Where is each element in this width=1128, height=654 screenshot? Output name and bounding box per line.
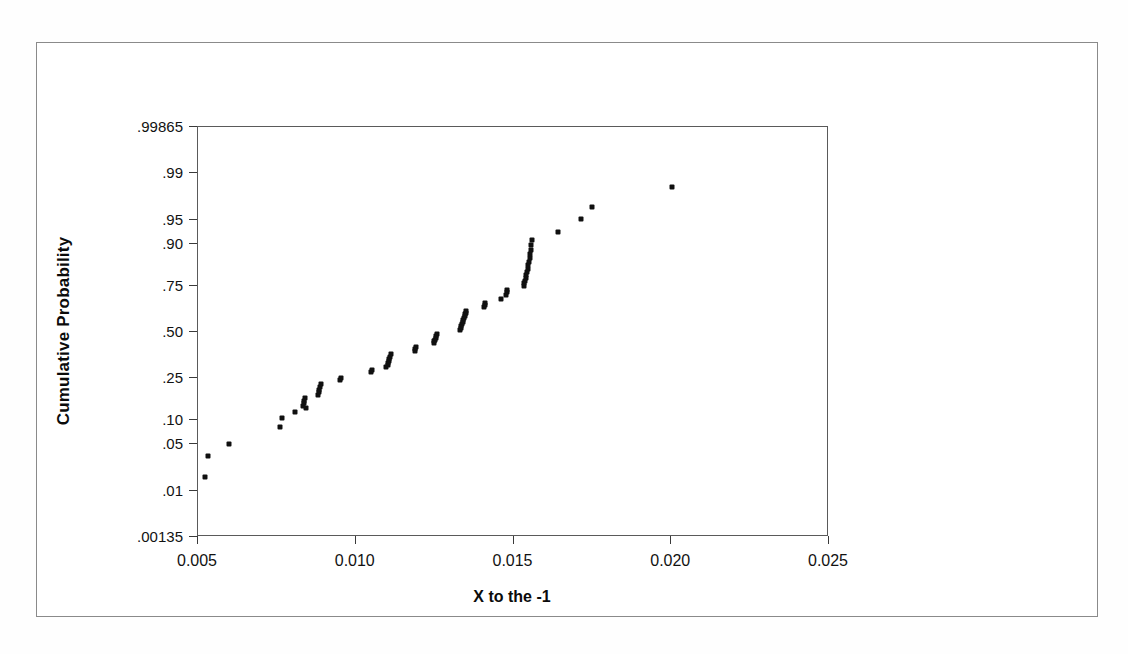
y-tick-mark: [189, 285, 197, 286]
y-tick-mark: [189, 419, 197, 420]
y-tick-label: .90: [162, 235, 183, 252]
y-tick-mark: [189, 443, 197, 444]
x-tick-label: 0.020: [650, 552, 690, 570]
x-tick-mark: [513, 536, 514, 544]
y-tick-mark: [189, 331, 197, 332]
probability-plot: .99865.99.95.90.75.50.25.10.05.01.00135 …: [0, 0, 1128, 654]
y-tick-mark: [189, 536, 197, 537]
x-tick-mark: [197, 536, 198, 544]
x-tick-mark: [670, 536, 671, 544]
x-tick-mark: [828, 536, 829, 544]
y-tick-label: .50: [162, 323, 183, 340]
plot-frame: [197, 126, 828, 536]
x-tick-label: 0.025: [808, 552, 848, 570]
y-tick-label: .05: [162, 435, 183, 452]
x-tick-label: 0.005: [177, 552, 217, 570]
y-tick-mark: [189, 219, 197, 220]
y-tick-mark: [189, 377, 197, 378]
y-tick-mark: [189, 490, 197, 491]
x-tick-label: 0.015: [492, 552, 532, 570]
y-tick-mark: [189, 172, 197, 173]
y-tick-label: .10: [162, 410, 183, 427]
x-tick-label: 0.010: [335, 552, 375, 570]
y-tick-mark: [189, 243, 197, 244]
y-tick-label: .99865: [137, 118, 183, 135]
y-tick-label: .01: [162, 481, 183, 498]
x-tick-mark: [355, 536, 356, 544]
page-canvas: .99865.99.95.90.75.50.25.10.05.01.00135 …: [0, 0, 1128, 654]
y-tick-label: .99: [162, 164, 183, 181]
y-tick-label: .95: [162, 210, 183, 227]
y-axis: .99865.99.95.90.75.50.25.10.05.01.00135: [0, 0, 197, 654]
y-axis-title: Cumulative Probability: [54, 237, 74, 426]
y-tick-mark: [189, 126, 197, 127]
x-axis-title: X to the -1: [473, 588, 550, 606]
y-tick-label: .75: [162, 276, 183, 293]
y-tick-label: .25: [162, 369, 183, 386]
y-tick-label: .00135: [137, 528, 183, 545]
